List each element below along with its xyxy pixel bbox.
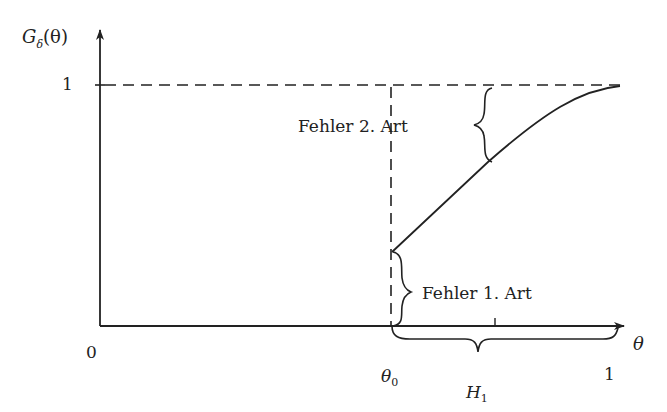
origin-label: 0 [86,344,97,361]
theta0-sub: 0 [391,376,398,389]
brace-H1 [392,326,618,352]
y-axis-label: Gδ(θ) [22,28,68,50]
theta0-label: θ0 [381,368,398,388]
y-tick-label-one: 1 [62,76,73,93]
H1-main: H [466,382,481,402]
power-curve [392,86,620,252]
type1-error-label: Fehler 1. Art [422,285,532,302]
x-tick-label-one: 1 [604,366,615,383]
brace-type1-error [393,252,411,326]
x-axis-label-theta: θ [633,335,644,353]
brace-type2-error [474,88,492,162]
y-label-arg: (θ) [43,26,68,47]
power-function-diagram [0,0,667,412]
y-label-G: G [22,26,36,47]
type2-error-label: Fehler 2. Art [298,118,408,135]
H1-label: H1 [466,384,488,404]
theta0-main: θ [381,366,391,386]
H1-sub: 1 [481,392,488,405]
